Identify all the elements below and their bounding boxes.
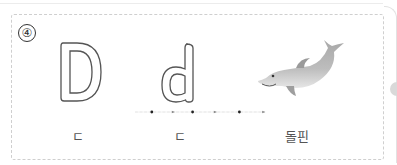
dotted-guide-line xyxy=(36,110,366,114)
page-divider xyxy=(0,3,383,4)
page-tab-notch xyxy=(390,82,397,96)
letter-uppercase-d-outline xyxy=(59,40,103,104)
label-uppercase-d: ㄷ xyxy=(48,126,108,145)
letter-lowercase-d-outline xyxy=(160,42,196,104)
label-lowercase-d: ㄷ xyxy=(150,126,210,145)
label-dolphin: 돌핀 xyxy=(267,126,327,145)
exercise-number: ④ xyxy=(18,24,36,42)
dolphin-image xyxy=(256,38,346,102)
